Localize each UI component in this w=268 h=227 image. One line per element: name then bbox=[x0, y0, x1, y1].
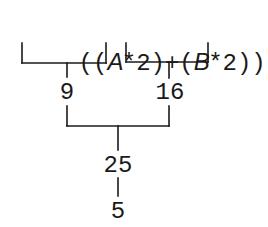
tree-connectors bbox=[0, 0, 268, 227]
right-bracket bbox=[126, 43, 208, 78]
sum-bracket bbox=[67, 106, 169, 150]
final-value: 5 bbox=[111, 199, 125, 225]
expression-evaluation-diagram: ((A*2)+(B*2))*.5 9 16 25 5 bbox=[0, 0, 268, 227]
sum-value: 25 bbox=[104, 153, 133, 179]
left-subexpr-value: 9 bbox=[60, 80, 74, 106]
left-bracket bbox=[22, 43, 106, 77]
right-subexpr-value: 16 bbox=[156, 80, 185, 106]
